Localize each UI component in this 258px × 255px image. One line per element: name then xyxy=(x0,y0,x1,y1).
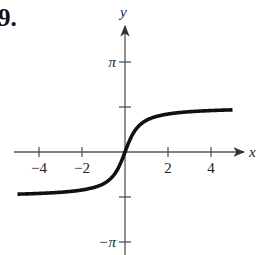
x-axis-label: x xyxy=(248,144,256,160)
y-axis-label: y xyxy=(118,4,127,20)
problem-number: 9. xyxy=(0,4,17,32)
y-tick-label: −π xyxy=(98,234,116,250)
x-tick-label: −4 xyxy=(31,160,47,176)
x-tick-label: 4 xyxy=(207,160,215,176)
y-tick-label: π xyxy=(108,54,116,70)
plot-area: x y −4−224 π−π xyxy=(0,0,258,255)
graph-figure: 9. x y −4−224 π−π xyxy=(0,0,258,255)
x-tick-label: 2 xyxy=(164,160,172,176)
x-tick-label: −2 xyxy=(74,160,90,176)
